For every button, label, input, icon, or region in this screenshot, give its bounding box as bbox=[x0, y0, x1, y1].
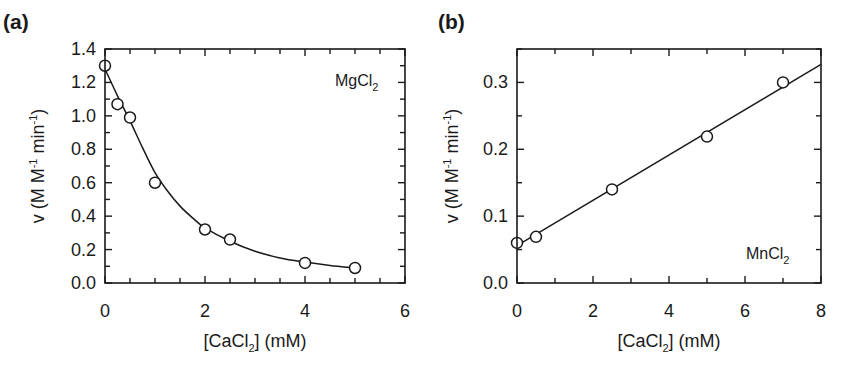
x-tick-label: 2 bbox=[200, 301, 210, 321]
panel-a-x-axis-label: [CaCl2] (mM) bbox=[203, 331, 306, 354]
y-tick-label: 0.1 bbox=[483, 206, 508, 226]
panel-b-chart: (b) 02468 0.00.10.20.3 MnCl2 v (M M-1 mi… bbox=[438, 10, 826, 354]
x-tick-label: 8 bbox=[816, 301, 826, 321]
data-point bbox=[150, 177, 161, 188]
data-point bbox=[200, 224, 211, 235]
panel-a-y-axis-label: v (M M-1 min-1) bbox=[27, 109, 48, 224]
data-point bbox=[125, 112, 136, 123]
x-tick-label: 4 bbox=[300, 301, 310, 321]
x-tick-label: 6 bbox=[740, 301, 750, 321]
y-tick-label: 0.0 bbox=[483, 273, 508, 293]
x-tick-label: 2 bbox=[588, 301, 598, 321]
data-point bbox=[702, 131, 713, 142]
y-tick-label: 0.6 bbox=[71, 173, 96, 193]
panel-b-y-axis-label: v (M M-1 min-1) bbox=[441, 109, 462, 224]
panel-b-label: (b) bbox=[438, 10, 465, 33]
data-point bbox=[225, 234, 236, 245]
panel-b-fit-line bbox=[517, 64, 821, 245]
panel-a-x-tick-labels: 0246 bbox=[100, 301, 410, 321]
y-tick-label: 1.2 bbox=[71, 72, 96, 92]
figure-svg: (a) 0246 0.00.20.40.60.81.01.21.4 MgCl2 … bbox=[0, 0, 847, 368]
panel-b-x-tick-labels: 02468 bbox=[512, 301, 826, 321]
data-point bbox=[778, 77, 789, 88]
panel-b-x-axis-label: [CaCl2] (mM) bbox=[617, 331, 720, 354]
panel-a-label: (a) bbox=[3, 10, 29, 33]
data-point bbox=[607, 184, 618, 195]
panel-a-chart: (a) 0246 0.00.20.40.60.81.01.21.4 MgCl2 … bbox=[3, 10, 410, 354]
y-tick-label: 0.3 bbox=[483, 72, 508, 92]
panel-b-annotation-mncl2: MnCl2 bbox=[746, 245, 789, 266]
panel-a-y-tick-labels: 0.00.20.40.60.81.01.21.4 bbox=[71, 39, 96, 293]
x-tick-label: 4 bbox=[664, 301, 674, 321]
data-point bbox=[112, 99, 123, 110]
y-tick-label: 0.2 bbox=[71, 240, 96, 260]
panel-b-y-tick-labels: 0.00.10.20.3 bbox=[483, 72, 508, 293]
y-tick-label: 1.4 bbox=[71, 39, 96, 59]
y-tick-label: 0.0 bbox=[71, 273, 96, 293]
x-tick-label: 6 bbox=[400, 301, 410, 321]
panel-b-data-points bbox=[512, 77, 789, 248]
data-point bbox=[531, 231, 542, 242]
y-tick-label: 0.4 bbox=[71, 206, 96, 226]
x-tick-label: 0 bbox=[100, 301, 110, 321]
data-point bbox=[300, 257, 311, 268]
y-tick-label: 0.8 bbox=[71, 139, 96, 159]
annot-mg: MgCl bbox=[335, 72, 372, 89]
data-point bbox=[350, 262, 361, 273]
figure: (a) 0246 0.00.20.40.60.81.01.21.4 MgCl2 … bbox=[0, 0, 847, 368]
panel-a-data-points bbox=[100, 60, 361, 273]
y-tick-label: 1.0 bbox=[71, 106, 96, 126]
panel-a-annotation-mgcl2: MgCl2 bbox=[335, 72, 378, 93]
x-tick-label: 0 bbox=[512, 301, 522, 321]
y-tick-label: 0.2 bbox=[483, 139, 508, 159]
